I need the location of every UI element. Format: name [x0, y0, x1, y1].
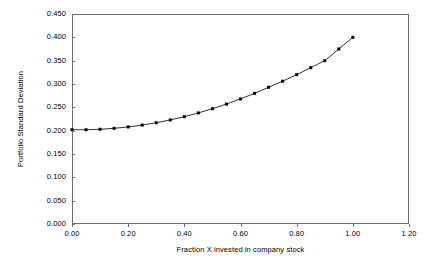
y-axis-tick-label: 0.000 [32, 220, 66, 228]
y-axis-tick-mark [72, 107, 75, 108]
y-axis-tick-labels: 0.0000.0500.1000.1500.2000.2500.3000.350… [30, 0, 66, 268]
x-axis-tick-label: 0.40 [164, 230, 204, 238]
y-axis-tick-mark [72, 61, 75, 62]
plot-area [72, 14, 409, 224]
y-axis-tick-label: 0.400 [32, 33, 66, 41]
x-axis-tick-label: 0.60 [221, 230, 261, 238]
x-axis-tick-label: 0.00 [52, 230, 92, 238]
y-axis-tick-label: 0.350 [32, 57, 66, 65]
x-axis-tick-mark [184, 224, 185, 227]
chart-container: 0.0000.0500.1000.1500.2000.2500.3000.350… [0, 0, 425, 268]
x-axis-tick-label: 1.00 [333, 230, 373, 238]
y-axis-tick-label: 0.200 [32, 127, 66, 135]
y-axis-tick-mark [72, 84, 75, 85]
x-axis-tick-mark [353, 224, 354, 227]
x-axis-tick-label: 0.80 [277, 230, 317, 238]
y-axis-tick-mark [72, 154, 75, 155]
y-axis-tick-mark [72, 14, 75, 15]
x-axis-title: Fraction X invested in company stock [72, 245, 409, 255]
x-axis-tick-mark [241, 224, 242, 227]
y-axis-title: Portfolio Standard Deviation [14, 14, 28, 224]
y-axis-tick-mark [72, 131, 75, 132]
y-axis-tick-mark [72, 37, 75, 38]
x-axis-tick-mark [409, 224, 410, 227]
y-axis-tick-mark [72, 177, 75, 178]
x-axis-tick-label: 0.20 [108, 230, 148, 238]
y-axis-tick-label: 0.250 [32, 103, 66, 111]
y-axis-tick-label: 0.150 [32, 150, 66, 158]
x-axis-tick-mark [72, 224, 73, 227]
y-axis-tick-label: 0.100 [32, 173, 66, 181]
x-axis-tick-mark [128, 224, 129, 227]
x-axis-tick-label: 1.20 [389, 230, 425, 238]
y-axis-tick-label: 0.300 [32, 80, 66, 88]
y-axis-tick-label: 0.450 [32, 10, 66, 18]
y-axis-tick-label: 0.050 [32, 197, 66, 205]
x-axis-tick-mark [297, 224, 298, 227]
y-axis-tick-mark [72, 201, 75, 202]
